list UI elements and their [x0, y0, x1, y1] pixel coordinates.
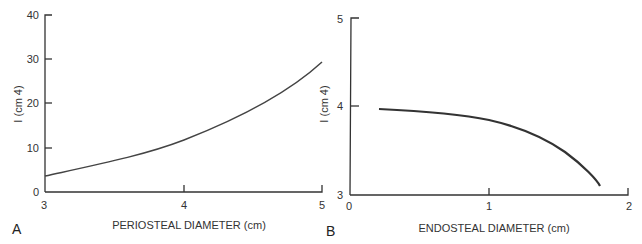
panel-label-a: A — [12, 221, 22, 237]
chart-a-y-tick-label: 0 — [33, 186, 39, 198]
chart-b-y-tick-label: 3 — [337, 189, 343, 201]
chart-a-x-tick-label: 3 — [41, 199, 47, 211]
chart-b-curve — [379, 109, 600, 186]
chart-a-y-tick-label: 10 — [27, 142, 39, 154]
chart-a-curve — [45, 62, 322, 176]
chart-a-y-tick-label: 40 — [27, 9, 39, 21]
chart-a-x-tick-label: 4 — [181, 199, 187, 211]
chart-b-y-axis-title: I (cm 4) — [318, 85, 330, 122]
chart-a-x-tick-label: 5 — [319, 199, 325, 211]
chart-a-y-tick-label: 30 — [27, 53, 39, 65]
chart-b-x-tick-label: 1 — [486, 200, 492, 212]
chart-a-y-tick-label: 20 — [27, 97, 39, 109]
panel-label-b: B — [326, 223, 335, 239]
chart-b-x-tick-label: 0 — [346, 200, 352, 212]
chart-b-x-axis-title: ENDOSTEAL DIAMETER (cm) — [418, 222, 569, 234]
chart-b-y-tick-label: 4 — [337, 100, 343, 112]
chart-b-x-tick-label: 2 — [626, 200, 632, 212]
chart-a-x-axis-title: PERIOSTEAL DIAMETER (cm) — [112, 219, 266, 231]
chart-b: 5 4 3 0 1 2 ENDOSTEAL DIAMETER (cm) I (c… — [318, 13, 632, 239]
chart-a-y-axis-title: I (cm 4) — [12, 85, 24, 122]
chart-b-y-tick-label: 5 — [337, 13, 343, 25]
chart-a: 40 30 20 10 0 3 4 5 PERIOSTEAL DIAMETER … — [12, 9, 325, 237]
figure: 40 30 20 10 0 3 4 5 PERIOSTEAL DIAMETER … — [0, 0, 642, 244]
